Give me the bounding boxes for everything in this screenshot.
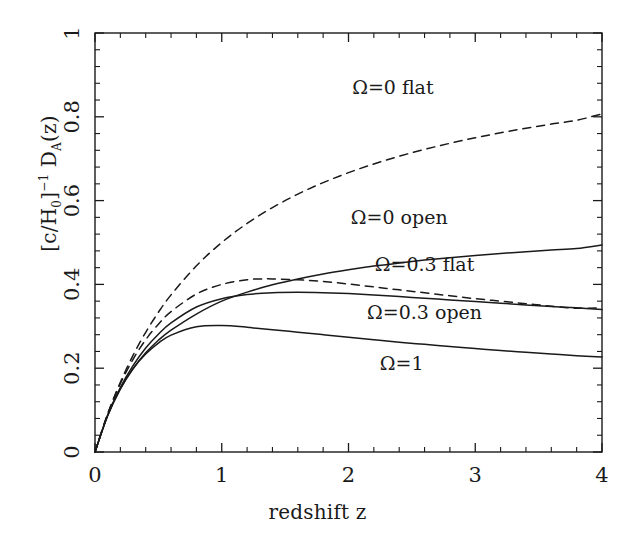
x-tick-label: 4 <box>595 463 608 487</box>
series-label-1: Ω=0 open <box>351 206 448 228</box>
series-label-2: Ω=0.3 flat <box>375 253 475 275</box>
x-tick-label: 0 <box>88 463 101 487</box>
angular-diameter-distance-plot: 0123400.20.40.60.81 Ω=0 flatΩ=0 openΩ=0.… <box>0 0 635 550</box>
x-tick-label: 2 <box>342 463 355 487</box>
chart-figure: 0123400.20.40.60.81 Ω=0 flatΩ=0 openΩ=0.… <box>0 0 635 550</box>
y-axis-label: [c/H0]−1 DA(z) <box>37 74 64 294</box>
series-label-3: Ω=0.3 open <box>367 301 482 323</box>
x-tick-label: 3 <box>469 463 482 487</box>
y-tick-label: 1 <box>60 26 84 39</box>
x-tick-label: 1 <box>215 463 228 487</box>
y-tick-label: 0 <box>60 445 84 458</box>
y-tick-label: 0.6 <box>60 184 84 217</box>
y-tick-label: 0.8 <box>60 100 84 133</box>
x-axis-label: redshift z <box>0 500 635 524</box>
series-label-0: Ω=0 flat <box>352 76 434 98</box>
y-tick-label: 0.2 <box>60 351 84 384</box>
y-axis-label-text: [c/H0]−1 DA(z) <box>37 115 61 251</box>
y-tick-label: 0.4 <box>60 268 84 301</box>
series-label-4: Ω=1 <box>380 352 424 374</box>
